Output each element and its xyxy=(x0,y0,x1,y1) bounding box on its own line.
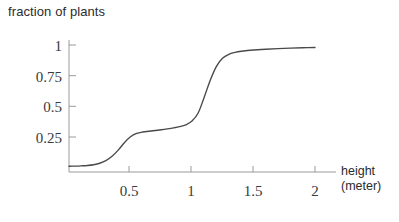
x-axis-label: height (meter) xyxy=(341,164,381,194)
x-tick-label-1: 1 xyxy=(187,183,195,199)
x-axis-label-line2: (meter) xyxy=(341,179,381,194)
y-tick-label-0.5: 0.5 xyxy=(43,99,62,115)
data-series-line xyxy=(69,47,315,166)
y-tick-label-1: 1 xyxy=(55,38,63,54)
x-tick-label-2: 2 xyxy=(311,183,319,199)
y-tick-label-0.25: 0.25 xyxy=(36,130,62,146)
y-tick-label-0.75: 0.75 xyxy=(36,69,62,85)
x-tick-label-0.5: 0.5 xyxy=(120,183,139,199)
x-axis-label-line1: height xyxy=(341,164,381,179)
chart-screenshot: fraction of plants 1 0.75 0.5 0.25 0.5 1… xyxy=(0,0,399,222)
line-chart: 1 0.75 0.5 0.25 0.5 1 1.5 2 xyxy=(0,0,399,222)
x-tick-label-1.5: 1.5 xyxy=(244,183,263,199)
